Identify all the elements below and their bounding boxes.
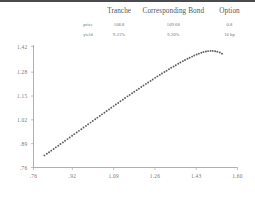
y-tick-label: 1.02 [17, 117, 27, 123]
data-point [78, 130, 80, 132]
data-point [184, 59, 186, 61]
data-point [83, 127, 85, 129]
data-point [191, 56, 193, 58]
data-point [170, 67, 172, 69]
data-point [69, 136, 71, 138]
table-row: price 108.8 109.68 0.8 [64, 20, 252, 30]
data-point [124, 97, 126, 99]
data-point [64, 140, 66, 142]
data-point [106, 110, 108, 112]
data-point [127, 95, 129, 97]
data-point [216, 51, 218, 53]
chart-canvas: .76.891.021.151.281.42 .76.921.091.261.4… [0, 40, 255, 205]
data-point [133, 91, 135, 93]
data-series-points [43, 50, 222, 156]
data-point [187, 58, 189, 60]
data-point [189, 57, 191, 59]
summary-row-label-price: price [64, 20, 99, 30]
data-point [219, 52, 221, 54]
summary-header-option: Option [207, 8, 252, 20]
data-point [119, 100, 121, 102]
data-point [152, 79, 154, 81]
data-point [57, 145, 59, 147]
data-point [210, 50, 212, 52]
data-point [131, 92, 133, 94]
data-point [163, 71, 165, 73]
summary-table-body: price 108.8 109.68 0.8 yield 9.21% 9.20%… [64, 20, 252, 40]
y-axis-ticks: .76.891.021.151.281.42 [17, 44, 33, 171]
data-point [166, 70, 168, 72]
data-point [110, 107, 112, 109]
data-point [140, 86, 142, 88]
data-point [205, 51, 207, 53]
data-point [53, 148, 55, 150]
top-divider-rule [0, 0, 255, 2]
data-point [43, 154, 45, 156]
data-point [214, 50, 216, 52]
data-point [203, 51, 205, 53]
data-point [87, 123, 89, 125]
data-point [145, 83, 147, 85]
data-point [175, 64, 177, 66]
data-point [115, 103, 117, 105]
data-point [48, 151, 50, 153]
summary-header-row: Tranche Corresponding Bond Option [64, 8, 252, 20]
data-point [96, 117, 98, 119]
data-point [147, 81, 149, 83]
data-point [179, 62, 181, 64]
data-point [156, 75, 158, 77]
data-point [76, 132, 78, 134]
data-point [85, 125, 87, 127]
data-point [50, 150, 52, 152]
data-point [55, 146, 57, 148]
data-point [150, 80, 152, 82]
data-point [108, 108, 110, 110]
y-tick-label: 1.42 [17, 44, 27, 50]
x-tick-label: 1.09 [108, 173, 118, 179]
data-point [99, 115, 101, 117]
data-point [200, 52, 202, 54]
summary-cell-yield-bond: 9.20% [140, 30, 207, 40]
data-point [46, 153, 48, 155]
data-point [90, 122, 92, 124]
summary-header-corner [64, 8, 99, 20]
y-tick-label: .89 [20, 141, 28, 147]
data-point [168, 68, 170, 70]
data-point [73, 133, 75, 135]
data-point [101, 113, 103, 115]
data-point [136, 89, 138, 91]
data-point [154, 77, 156, 79]
data-point [193, 55, 195, 57]
data-point [122, 99, 124, 101]
summary-header-tranche: Tranche [99, 8, 140, 20]
data-point [159, 74, 161, 76]
data-point [161, 73, 163, 75]
data-point [182, 60, 184, 62]
x-tick-label: .92 [69, 173, 77, 179]
data-point [94, 118, 96, 120]
summary-cell-price-tranche: 108.8 [99, 20, 140, 30]
data-point [138, 88, 140, 90]
data-point [207, 50, 209, 52]
data-point [60, 143, 62, 145]
x-tick-label: 1.26 [150, 173, 160, 179]
data-point [67, 138, 69, 140]
data-point [143, 85, 145, 87]
data-point [177, 63, 179, 65]
x-tick-label: 1.43 [191, 173, 201, 179]
summary-cell-yield-tranche: 9.21% [99, 30, 140, 40]
y-tick-label: .76 [20, 165, 28, 171]
data-point [198, 53, 200, 55]
summary-table-header: Tranche Corresponding Bond Option [64, 8, 252, 20]
summary-cell-price-option: 0.8 [207, 20, 252, 30]
data-point [80, 128, 82, 130]
data-point [129, 94, 131, 96]
data-point [221, 53, 223, 55]
data-point [103, 112, 105, 114]
data-point [212, 50, 214, 52]
data-point [92, 120, 94, 122]
summary-cell-yield-option: 10 bp [207, 30, 252, 40]
data-point [62, 141, 64, 143]
data-point [196, 54, 198, 56]
y-tick-label: 1.28 [17, 69, 27, 75]
